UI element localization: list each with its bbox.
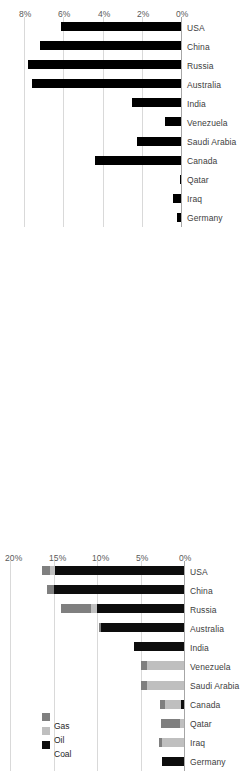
top-category-label: India bbox=[187, 99, 206, 109]
top-ytick-label: 8% bbox=[19, 9, 32, 19]
bottom-bar-segment bbox=[160, 700, 165, 709]
bottom-bar-segment bbox=[181, 700, 184, 709]
top-category-label: China bbox=[187, 42, 210, 52]
bottom-category-label: Venezuela bbox=[190, 662, 231, 672]
legend-item-gas[interactable] bbox=[42, 713, 50, 721]
top-chart: 0%2%4%6%8%GermanyIraqQatarCanadaSaudi Ar… bbox=[0, 0, 245, 272]
bottom-bar-segment bbox=[101, 623, 184, 632]
legend-swatch-coal-icon bbox=[42, 741, 50, 749]
bottom-bar-segment bbox=[141, 681, 146, 690]
top-bar bbox=[165, 118, 181, 127]
top-bar bbox=[137, 137, 181, 146]
bottom-ytick-label: 0% bbox=[179, 553, 192, 563]
top-axis-baseline bbox=[181, 17, 182, 227]
bottom-bar-segment bbox=[47, 585, 54, 594]
bottom-bar-segment bbox=[97, 604, 184, 613]
top-category-label: Iraq bbox=[187, 194, 202, 204]
top-category-label: Qatar bbox=[187, 175, 209, 185]
bottom-bar-segment bbox=[161, 719, 180, 728]
bottom-bar-segment bbox=[55, 566, 184, 575]
bottom-category-label: Qatar bbox=[190, 719, 212, 729]
bottom-category-label: India bbox=[190, 643, 209, 653]
bottom-bar-segment bbox=[159, 738, 162, 747]
bottom-bar-segment bbox=[147, 662, 184, 671]
top-bar bbox=[95, 156, 181, 165]
bottom-chart: 0%5%10%15%20%GermanyIraqQatarCanadaSaudi… bbox=[0, 272, 245, 544]
top-bar bbox=[40, 41, 181, 50]
legend-swatch-oil-icon bbox=[42, 727, 50, 735]
top-category-label: Germany bbox=[187, 213, 223, 223]
bottom-category-label: Iraq bbox=[190, 738, 205, 748]
bottom-axis-baseline bbox=[184, 561, 185, 771]
top-category-label: USA bbox=[187, 23, 205, 33]
top-ytick-label: 6% bbox=[58, 9, 71, 19]
bottom-gridline bbox=[10, 561, 11, 771]
bottom-bar-segment bbox=[134, 642, 184, 651]
top-bar bbox=[173, 194, 181, 203]
bottom-ytick-label: 5% bbox=[136, 553, 149, 563]
top-category-label: Saudi Arabia bbox=[187, 137, 236, 147]
bottom-category-label: Saudi Arabia bbox=[190, 681, 239, 691]
bottom-bar-segment bbox=[147, 681, 184, 690]
top-bar bbox=[177, 213, 181, 222]
top-bar bbox=[61, 22, 181, 31]
bottom-bar-segment bbox=[42, 566, 50, 575]
top-bar bbox=[32, 79, 181, 88]
bottom-category-label: Russia bbox=[190, 605, 217, 615]
bottom-bar-segment bbox=[50, 566, 55, 575]
legend-swatch-gas-icon bbox=[42, 713, 50, 721]
legend-label-oil: Oil bbox=[54, 735, 64, 745]
bottom-bar-segment bbox=[91, 604, 97, 613]
bottom-bar-segment bbox=[99, 623, 102, 632]
legend-item-oil[interactable] bbox=[42, 727, 50, 735]
legend-item-coal[interactable] bbox=[42, 741, 50, 749]
bottom-bar-segment bbox=[180, 719, 184, 728]
bottom-category-label: Canada bbox=[190, 700, 220, 710]
top-bar bbox=[180, 175, 181, 184]
top-gridline bbox=[24, 17, 25, 227]
bottom-bar-segment bbox=[141, 662, 146, 671]
bottom-ytick-label: 10% bbox=[92, 553, 109, 563]
top-ytick-label: 2% bbox=[137, 9, 150, 19]
top-category-label: Venezuela bbox=[187, 118, 228, 128]
bottom-ytick-label: 15% bbox=[49, 553, 66, 563]
top-ytick-label: 0% bbox=[176, 9, 189, 19]
bottom-category-label: China bbox=[190, 586, 213, 596]
top-ytick-label: 4% bbox=[98, 9, 111, 19]
top-category-label: Australia bbox=[187, 80, 221, 90]
bottom-bar-segment bbox=[61, 604, 91, 613]
bottom-bar-segment bbox=[54, 585, 184, 594]
bottom-plot-area: 0%5%10%15%20%GermanyIraqQatarCanadaSaudi… bbox=[0, 517, 245, 775]
bottom-ytick-label: 20% bbox=[5, 553, 22, 563]
bottom-bar-segment bbox=[162, 757, 184, 766]
bottom-category-label: Germany bbox=[190, 757, 226, 767]
legend-label-gas: Gas bbox=[54, 721, 70, 731]
bottom-category-label: Australia bbox=[190, 624, 224, 634]
top-category-label: Russia bbox=[187, 61, 214, 71]
top-bar bbox=[28, 60, 181, 69]
bottom-category-label: USA bbox=[190, 567, 208, 577]
top-bar bbox=[132, 98, 181, 107]
bottom-bar-segment bbox=[162, 738, 184, 747]
top-plot-area: 0%2%4%6%8%GermanyIraqQatarCanadaSaudi Ar… bbox=[0, 0, 245, 245]
top-category-label: Canada bbox=[187, 156, 217, 166]
legend-label-coal: Coal bbox=[54, 749, 71, 759]
bottom-bar-segment bbox=[165, 700, 181, 709]
